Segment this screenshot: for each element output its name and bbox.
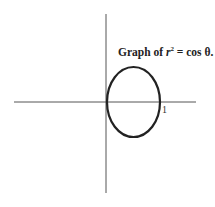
graph-canvas xyxy=(0,0,215,207)
graph-title: Graph of r2 = cos θ. xyxy=(118,45,213,58)
x-tick-label: 1 xyxy=(162,104,167,115)
